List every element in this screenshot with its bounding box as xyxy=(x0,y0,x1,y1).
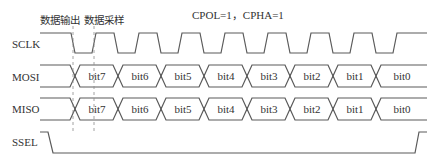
ssel-waveform xyxy=(40,132,427,153)
mode-title: CPOL=1，CPHA=1 xyxy=(192,9,284,21)
miso-bit-cell: bit6 xyxy=(131,103,149,115)
miso-bit-cell: bit2 xyxy=(303,103,320,115)
miso-label: MISO xyxy=(12,103,40,115)
mosi-bit-cell: bit2 xyxy=(303,70,320,82)
ssel-label: SSEL xyxy=(12,136,38,148)
mosi-bit-cell: bit1 xyxy=(346,70,363,82)
mosi-bit-cell: bit4 xyxy=(217,70,235,82)
sclk-label: SCLK xyxy=(12,38,40,50)
sclk-waveform xyxy=(40,33,427,53)
mosi-label: MOSI xyxy=(12,71,40,83)
miso-bit-cell: bit1 xyxy=(346,103,363,115)
mosi-bit-cell: bit0 xyxy=(393,70,411,82)
data-output-annotation: 数据输出 xyxy=(40,14,80,26)
miso-bit-cell: bit7 xyxy=(88,103,106,115)
miso-bit-cell: bit3 xyxy=(260,103,278,115)
miso-bit-cell: bit4 xyxy=(217,103,235,115)
mosi-bit-cell: bit5 xyxy=(174,70,192,82)
miso-bit-cell: bit0 xyxy=(393,103,411,115)
miso-bit-cell: bit5 xyxy=(174,103,192,115)
spi-timing-diagram: 数据输出 数据采样 CPOL=1，CPHA=1 SCLK MOSI MISO S… xyxy=(0,0,437,166)
mosi-bit-cell: bit7 xyxy=(88,70,106,82)
mosi-bit-cell: bit6 xyxy=(131,70,149,82)
data-sample-annotation: 数据采样 xyxy=(84,14,124,26)
mosi-bit-cell: bit3 xyxy=(260,70,278,82)
